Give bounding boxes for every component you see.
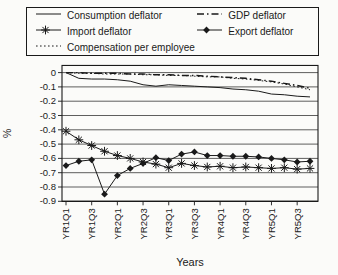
- svg-text:YR4Q1: YR4Q1: [215, 208, 226, 239]
- svg-text:YR5Q3: YR5Q3: [292, 208, 303, 239]
- svg-text:-0.4: -0.4: [40, 124, 56, 135]
- svg-text:0: 0: [51, 67, 56, 78]
- svg-text:-0.5: -0.5: [40, 138, 56, 149]
- svg-text:YR5Q1: YR5Q1: [266, 208, 277, 239]
- deflators-chart: Consumption deflator GDP deflator Import…: [0, 0, 338, 275]
- svg-text:YR1Q1: YR1Q1: [61, 208, 72, 239]
- x-axis-labels: YR1Q1YR1Q3YR2Q1YR2Q3YR3Q1YR3Q3YR4Q1YR4Q3…: [61, 201, 303, 239]
- x-axis-title: Years: [176, 256, 204, 268]
- svg-text:YR3Q3: YR3Q3: [189, 208, 200, 239]
- svg-text:-0.3: -0.3: [40, 110, 56, 121]
- y-axis-title: %: [1, 129, 13, 138]
- svg-text:YR2Q1: YR2Q1: [112, 208, 123, 239]
- svg-text:YR1Q3: YR1Q3: [86, 208, 97, 239]
- svg-text:YR3Q1: YR3Q1: [163, 208, 174, 239]
- plot-area: 0-0.1-0.2-0.3-0.4-0.5-0.6-0.7-0.8-0.9YR1…: [0, 0, 338, 275]
- svg-text:-0.2: -0.2: [40, 95, 56, 106]
- svg-text:-0.9: -0.9: [40, 195, 56, 206]
- series-consumption-deflator: [66, 73, 310, 97]
- svg-text:YR4Q3: YR4Q3: [240, 208, 251, 239]
- series-import-deflator: [62, 127, 315, 174]
- svg-text:-0.8: -0.8: [40, 181, 56, 192]
- svg-text:YR2Q3: YR2Q3: [138, 208, 149, 239]
- series-export-deflator: [63, 149, 314, 198]
- svg-text:-0.6: -0.6: [40, 152, 56, 163]
- svg-text:-0.7: -0.7: [40, 167, 56, 178]
- svg-text:-0.1: -0.1: [40, 81, 56, 92]
- y-axis-labels: 0-0.1-0.2-0.3-0.4-0.5-0.6-0.7-0.8-0.9: [40, 67, 62, 207]
